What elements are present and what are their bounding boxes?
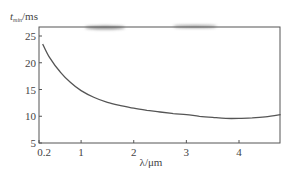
plot-frame xyxy=(39,27,280,143)
x-tick-label: 3 xyxy=(184,146,190,158)
y-tick-label: 5 xyxy=(31,137,37,149)
y-tick-label: 20 xyxy=(25,57,37,69)
y-label-sub: min xyxy=(13,17,22,23)
x-tick-label: 1 xyxy=(78,146,84,158)
y-axis-label: tmin/ms xyxy=(10,10,38,23)
y-tick-label: 15 xyxy=(25,84,37,96)
x-axis-label: λ/μm xyxy=(140,156,163,168)
y-tick-label: 25 xyxy=(25,30,37,42)
chart: 510152025 0.21234 tmin/ms λ/μm xyxy=(0,0,295,181)
x-tick-label: 0.2 xyxy=(37,146,51,158)
y-label-unit: /ms xyxy=(22,10,38,22)
x-tick-label: 2 xyxy=(131,146,137,158)
data-line-tmin xyxy=(43,44,281,119)
x-tick-label: 4 xyxy=(236,146,242,158)
y-tick-label: 10 xyxy=(25,110,37,122)
